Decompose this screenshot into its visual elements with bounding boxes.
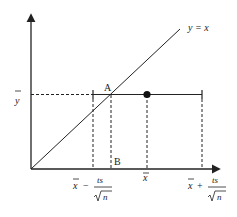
point-a-label: A [104, 82, 112, 93]
left-bound-label: x − ts n [72, 175, 112, 202]
svg-text:x: x [72, 180, 78, 191]
identity-line [31, 29, 180, 169]
diagram-canvas: y = x A B y x x − ts n x + ts n [0, 0, 237, 217]
svg-text:−: − [83, 180, 89, 191]
svg-text:ts: ts [212, 175, 219, 185]
svg-text:n: n [217, 192, 222, 202]
mean-point [143, 91, 150, 98]
svg-text:n: n [103, 192, 108, 202]
svg-text:ts: ts [97, 175, 104, 185]
y-bar-label: y [14, 95, 20, 106]
x-bar-label: x [142, 172, 148, 183]
svg-text:+: + [197, 180, 203, 191]
point-b-label: B [114, 156, 121, 167]
identity-line-label: y = x [187, 22, 209, 33]
svg-text:x: x [187, 180, 193, 191]
right-bound-label: x + ts n [187, 175, 226, 202]
